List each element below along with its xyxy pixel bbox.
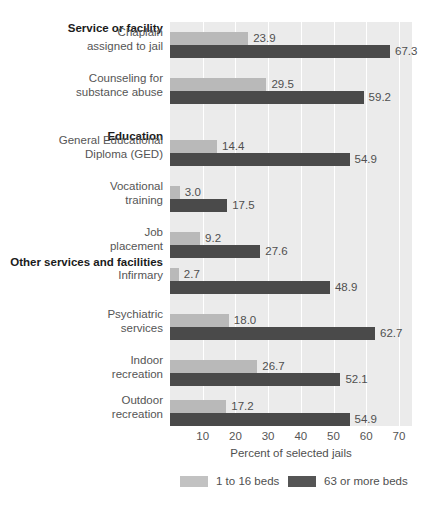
bar-value-1-to-16-beds: 9.2 xyxy=(205,232,221,245)
category-label: General EducationalDiploma (GED) xyxy=(0,134,163,161)
chart-row: Vocationaltraining3.017.5 xyxy=(0,186,435,214)
x-tick-50: 50 xyxy=(327,430,340,442)
category-label-line1: Psychiatric xyxy=(0,308,163,322)
category-label-line1: Indoor xyxy=(0,354,163,368)
bar-value-1-to-16-beds: 18.0 xyxy=(234,314,256,327)
chart-row: Counseling forsubstance abuse29.559.2 xyxy=(0,78,435,106)
bar-1-to-16-beds xyxy=(170,314,229,327)
category-label-line2: placement xyxy=(0,240,163,254)
chart-row: Infirmary2.748.9 xyxy=(0,268,435,296)
category-label: Counseling forsubstance abuse xyxy=(0,72,163,99)
x-axis-ticks: 10203040506070 xyxy=(170,430,412,444)
chart-row: Outdoorrecreation17.254.9 xyxy=(0,400,435,428)
bar-value-63-or-more-beds: 54.9 xyxy=(355,153,377,166)
bar-1-to-16-beds xyxy=(170,360,257,373)
chart-row: Jobplacement9.227.6 xyxy=(0,232,435,260)
category-label-line1: Job xyxy=(0,226,163,240)
category-label: Psychiatricservices xyxy=(0,308,163,335)
category-label-line2: Diploma (GED) xyxy=(0,148,163,162)
bar-63-or-more-beds xyxy=(170,199,227,212)
x-tick-10: 10 xyxy=(196,430,209,442)
bar-chart: Service or facility Education Other serv… xyxy=(0,0,435,513)
x-axis-title: Percent of selected jails xyxy=(170,447,412,459)
chart-row: Psychiatricservices18.062.7 xyxy=(0,314,435,342)
bar-63-or-more-beds xyxy=(170,413,350,426)
bar-value-63-or-more-beds: 48.9 xyxy=(335,281,357,294)
category-label-line2: training xyxy=(0,194,163,208)
category-label-line2: services xyxy=(0,322,163,336)
bar-value-1-to-16-beds: 23.9 xyxy=(253,32,275,45)
x-tick-40: 40 xyxy=(294,430,307,442)
x-tick-20: 20 xyxy=(229,430,242,442)
bar-value-1-to-16-beds: 17.2 xyxy=(231,400,253,413)
x-tick-70: 70 xyxy=(393,430,406,442)
bar-1-to-16-beds xyxy=(170,232,200,245)
category-label: Jobplacement xyxy=(0,226,163,253)
bar-value-1-to-16-beds: 14.4 xyxy=(222,140,244,153)
category-label-line1: Chaplain xyxy=(0,26,163,40)
bar-1-to-16-beds xyxy=(170,400,226,413)
bar-value-1-to-16-beds: 3.0 xyxy=(185,186,201,199)
category-label: Chaplainassigned to jail xyxy=(0,26,163,53)
legend: 1 to 16 beds63 or more beds xyxy=(170,474,420,492)
bar-63-or-more-beds xyxy=(170,327,375,340)
legend-swatch-icon xyxy=(288,476,316,487)
bar-value-63-or-more-beds: 17.5 xyxy=(232,199,254,212)
category-label-line1: Vocational xyxy=(0,180,163,194)
category-label: Outdoorrecreation xyxy=(0,394,163,421)
bar-value-63-or-more-beds: 67.3 xyxy=(395,45,417,58)
category-label: Indoorrecreation xyxy=(0,354,163,381)
bar-63-or-more-beds xyxy=(170,91,364,104)
bar-1-to-16-beds xyxy=(170,140,217,153)
bar-value-63-or-more-beds: 59.2 xyxy=(369,91,391,104)
bar-1-to-16-beds xyxy=(170,268,179,281)
legend-label: 1 to 16 beds xyxy=(216,474,279,489)
x-tick-30: 30 xyxy=(262,430,275,442)
bar-value-63-or-more-beds: 52.1 xyxy=(345,373,367,386)
bar-63-or-more-beds xyxy=(170,45,390,58)
category-label-line1: Outdoor xyxy=(0,394,163,408)
category-label-line2: recreation xyxy=(0,368,163,382)
x-tick-60: 60 xyxy=(360,430,373,442)
bar-value-1-to-16-beds: 29.5 xyxy=(271,78,293,91)
bar-63-or-more-beds xyxy=(170,245,260,258)
category-label-line2: assigned to jail xyxy=(0,40,163,54)
chart-row: General EducationalDiploma (GED)14.454.9 xyxy=(0,140,435,168)
bar-1-to-16-beds xyxy=(170,186,180,199)
chart-row: Indoorrecreation26.752.1 xyxy=(0,360,435,388)
category-label-line2: recreation xyxy=(0,408,163,422)
category-label-line1: General Educational xyxy=(0,134,163,148)
category-label-line1: Infirmary xyxy=(0,269,163,283)
category-label-line1: Counseling for xyxy=(0,72,163,86)
legend-label: 63 or more beds xyxy=(324,474,408,489)
bar-63-or-more-beds xyxy=(170,373,340,386)
bar-63-or-more-beds xyxy=(170,281,330,294)
bar-value-1-to-16-beds: 26.7 xyxy=(262,360,284,373)
category-label: Vocationaltraining xyxy=(0,180,163,207)
bar-value-1-to-16-beds: 2.7 xyxy=(184,268,200,281)
bar-63-or-more-beds xyxy=(170,153,350,166)
category-label: Infirmary xyxy=(0,269,163,283)
bar-value-63-or-more-beds: 62.7 xyxy=(380,327,402,340)
bar-value-63-or-more-beds: 54.9 xyxy=(355,413,377,426)
chart-row: Chaplainassigned to jail23.967.3 xyxy=(0,32,435,60)
bar-1-to-16-beds xyxy=(170,78,266,91)
legend-swatch-icon xyxy=(180,476,208,487)
bar-value-63-or-more-beds: 27.6 xyxy=(265,245,287,258)
bar-1-to-16-beds xyxy=(170,32,248,45)
category-label-line2: substance abuse xyxy=(0,86,163,100)
